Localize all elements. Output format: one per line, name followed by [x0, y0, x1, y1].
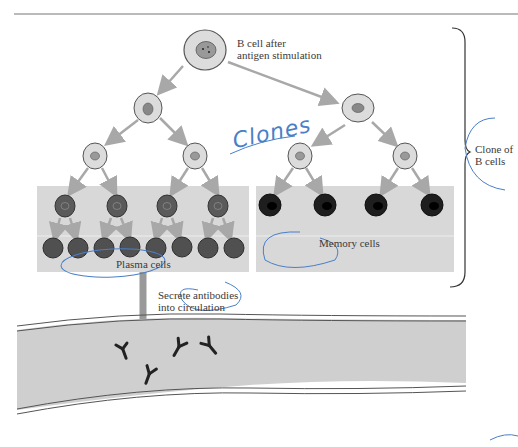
blood-vessel [17, 318, 466, 410]
root-b-cell [184, 30, 226, 70]
clone-of-label-line2: B cells [475, 155, 505, 167]
memory-cells-label: Memory cells [319, 237, 380, 249]
plasma-cells-label: Plasma cells [116, 258, 171, 270]
b-cell-label-line1: B cell after [237, 37, 286, 49]
clone-of-label-line1: Clone of [475, 143, 513, 155]
secrete-label-line1: Secrete antibodies [158, 289, 238, 301]
b-cell-label-line2: antigen stimulation [237, 49, 322, 61]
b-cell-clonal-diagram [0, 0, 518, 447]
gen2-cells [134, 93, 374, 123]
secrete-label-line2: into circulation [158, 301, 225, 313]
